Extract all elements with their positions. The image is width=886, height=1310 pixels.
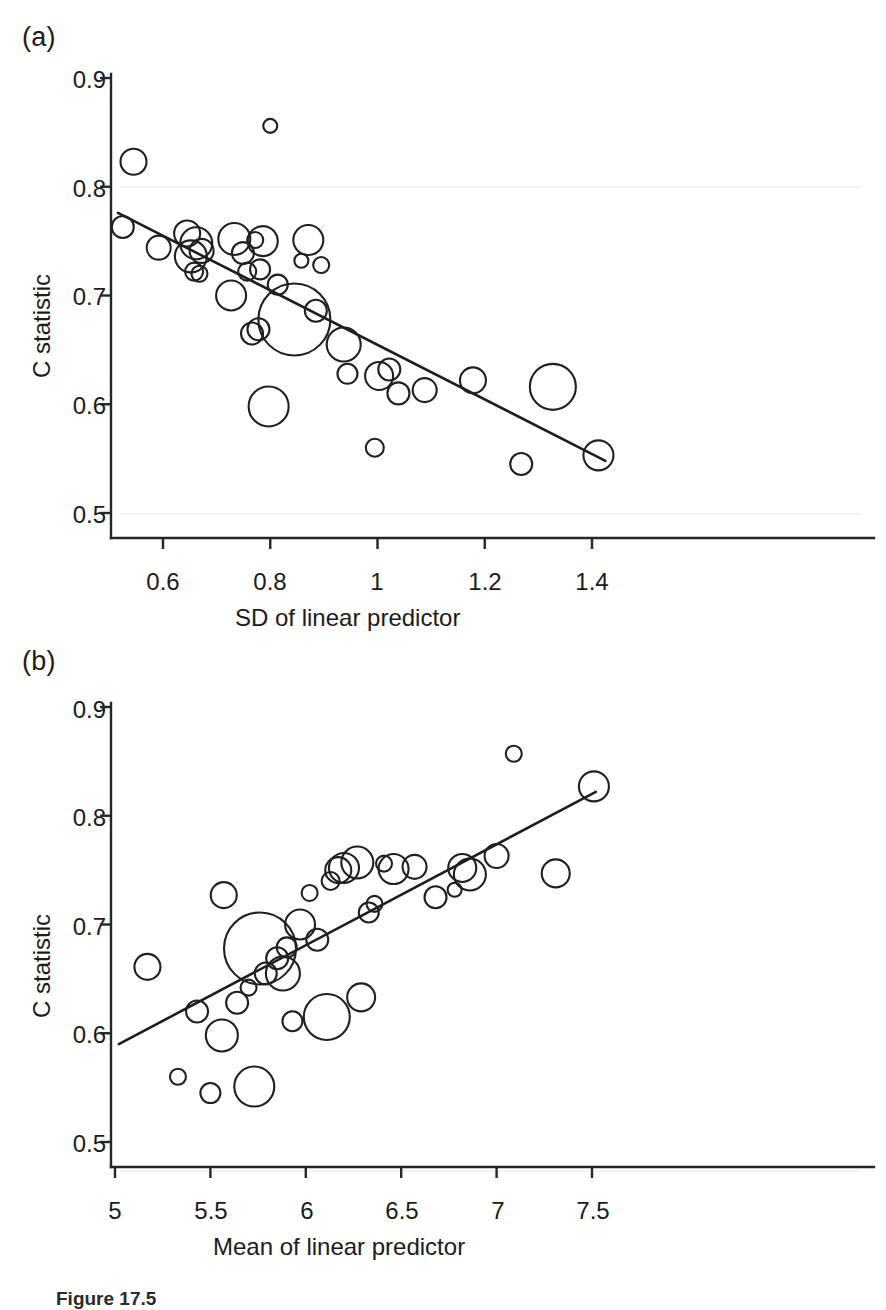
panel-b-plot-area — [0, 640, 886, 1300]
panel-b: (b) C statistic 0.9 0.8 0.7 0.6 0.5 5 5.… — [0, 640, 886, 1300]
figure-caption: Figure 17.5 — [56, 1288, 156, 1310]
panel-a-plot-area — [0, 0, 886, 640]
panel-a: (a) C statistic 0.9 0.8 0.7 0.6 0.5 0.6 … — [0, 0, 886, 640]
